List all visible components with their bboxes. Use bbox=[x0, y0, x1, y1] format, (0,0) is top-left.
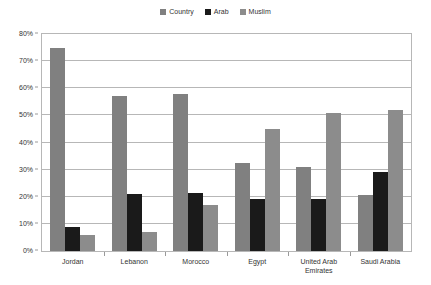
x-axis-category-label: Lebanon bbox=[106, 257, 162, 266]
x-axis-tick bbox=[288, 252, 289, 256]
bar-muslim bbox=[80, 235, 95, 251]
legend-swatch-icon bbox=[205, 9, 211, 15]
y-axis-tick bbox=[35, 114, 38, 115]
bar-muslim bbox=[326, 113, 341, 251]
bar-muslim bbox=[388, 110, 403, 251]
bar-arab bbox=[250, 199, 265, 251]
y-axis-tick-label: 10% bbox=[19, 219, 33, 226]
bar-country bbox=[173, 94, 188, 251]
bar-country bbox=[296, 167, 311, 251]
legend-entry-arab: Arab bbox=[205, 8, 229, 15]
bar-group bbox=[165, 34, 227, 251]
bar-arab bbox=[311, 199, 326, 251]
bar-muslim bbox=[142, 232, 157, 251]
y-axis-tick bbox=[35, 141, 38, 142]
legend-label: Country bbox=[169, 8, 194, 15]
x-axis-labels: JordanLebanonMoroccoEgyptUnited Arab Emi… bbox=[42, 257, 411, 283]
bar-arab bbox=[373, 172, 388, 251]
bar-muslim bbox=[203, 205, 218, 251]
y-axis-tick-label: 0% bbox=[23, 247, 33, 254]
y-axis-tick bbox=[35, 87, 38, 88]
bar-muslim bbox=[265, 129, 280, 251]
chart-legend: CountryArabMuslim bbox=[0, 8, 431, 15]
bar-country bbox=[358, 195, 373, 251]
y-axis-tick-label: 80% bbox=[19, 30, 33, 37]
bar-arab bbox=[65, 227, 80, 251]
bar-group bbox=[227, 34, 289, 251]
bar-country bbox=[50, 48, 65, 251]
bar-group bbox=[42, 34, 104, 251]
bar-country bbox=[235, 163, 250, 251]
y-axis-tick-label: 40% bbox=[19, 138, 33, 145]
legend-entry-muslim: Muslim bbox=[240, 8, 271, 15]
y-axis-tick-label: 60% bbox=[19, 84, 33, 91]
x-axis-tick bbox=[165, 252, 166, 256]
y-axis-tick bbox=[35, 168, 38, 169]
x-axis-category-label: Saudi Arabia bbox=[352, 257, 408, 266]
x-axis-tick bbox=[227, 252, 228, 256]
legend-swatch-icon bbox=[240, 9, 246, 15]
bar-group bbox=[350, 34, 412, 251]
y-axis-tick-label: 20% bbox=[19, 192, 33, 199]
x-axis-ticks bbox=[42, 252, 411, 256]
x-axis-tick bbox=[104, 252, 105, 256]
y-axis: 0%10%20%30%40%50%60%70%80% bbox=[0, 33, 38, 252]
y-axis-tick-label: 30% bbox=[19, 165, 33, 172]
x-axis-category-label: Morocco bbox=[168, 257, 224, 266]
x-axis-category-label: United Arab Emirates bbox=[291, 257, 347, 275]
bar-chart: CountryArabMuslim 0%10%20%30%40%50%60%70… bbox=[0, 0, 431, 285]
y-axis-tick-label: 50% bbox=[19, 111, 33, 118]
legend-swatch-icon bbox=[160, 9, 166, 15]
bars-layer bbox=[42, 34, 411, 251]
y-axis-tick-label: 70% bbox=[19, 57, 33, 64]
x-axis-category-label: Jordan bbox=[45, 257, 101, 266]
bar-arab bbox=[127, 194, 142, 251]
y-axis-tick bbox=[35, 33, 38, 34]
y-axis-tick bbox=[35, 250, 38, 251]
bar-group bbox=[104, 34, 166, 251]
y-axis-tick bbox=[35, 222, 38, 223]
bar-group bbox=[288, 34, 350, 251]
legend-label: Arab bbox=[214, 8, 229, 15]
x-axis-category-label: Egypt bbox=[229, 257, 285, 266]
x-axis-tick bbox=[350, 252, 351, 256]
legend-label: Muslim bbox=[249, 8, 271, 15]
y-axis-tick bbox=[35, 195, 38, 196]
y-axis-tick bbox=[35, 60, 38, 61]
bar-arab bbox=[188, 193, 203, 251]
bar-country bbox=[112, 96, 127, 251]
legend-entry-country: Country bbox=[160, 8, 194, 15]
